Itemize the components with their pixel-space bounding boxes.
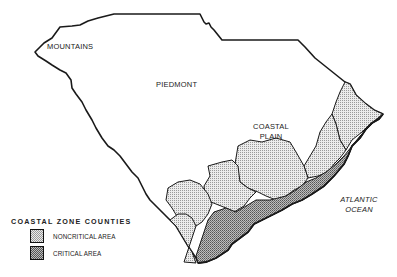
legend-item-critical: CRITICAL AREA	[30, 246, 101, 260]
piedmont-label: PIEDMONT	[156, 81, 197, 89]
critical-swatch	[30, 246, 44, 260]
noncritical-label: NONCRITICAL AREA	[53, 233, 116, 240]
noncritical-swatch	[30, 229, 44, 243]
atlantic-ocean-label: ATLANTIC OCEAN	[336, 196, 382, 213]
ocean-line2: OCEAN	[336, 206, 382, 214]
coastal-plain-line1: COASTAL	[248, 123, 294, 131]
legend-title: COASTAL ZONE COUNTIES	[11, 217, 131, 226]
atlantic-line1: ATLANTIC	[336, 196, 382, 204]
coastal-plain-label: COASTAL PLAIN	[248, 123, 294, 140]
legend-item-noncritical: NONCRITICAL AREA	[30, 229, 116, 243]
critical-label: CRITICAL AREA	[53, 250, 101, 257]
mountains-label: MOUNTAINS	[47, 43, 93, 51]
coastal-plain-line2: PLAIN	[248, 133, 294, 141]
